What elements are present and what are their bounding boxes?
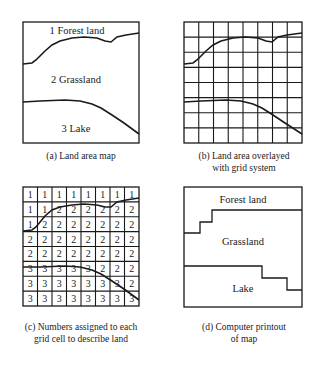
grid-cell-value: 3 <box>71 278 76 289</box>
grid-cell-value: 2 <box>57 219 62 230</box>
grid-cell-value: 2 <box>115 219 120 230</box>
panel-c-numbered-grid: 1111111111222222122222222222222222222222… <box>23 187 139 306</box>
grid-cell-value: 2 <box>115 248 120 259</box>
grid-cell-value: 1 <box>100 189 105 200</box>
forest-grass-boundary <box>23 33 139 64</box>
grid-cell-value: 2 <box>129 234 134 245</box>
caption-d-line2: of map <box>160 333 318 345</box>
grid-cell-value: 1 <box>71 189 76 200</box>
grid-cell-value: 3 <box>42 263 47 274</box>
grid-cell-value: 2 <box>115 263 120 274</box>
land-grid-diagram: 1 Forest land 2 Grassland 3 Lake 1111111… <box>0 0 318 366</box>
grid-cell-value: 2 <box>86 219 91 230</box>
grid-cell-value: 2 <box>86 248 91 259</box>
grid-cell-value: 1 <box>28 189 33 200</box>
grid-cell-value: 1 <box>57 189 62 200</box>
grid-cell-value: 2 <box>129 263 134 274</box>
grid-cell-value: 3 <box>42 293 47 304</box>
caption-a: (a) Land area map <box>0 150 162 162</box>
caption-d: (d) Computer printout of map <box>160 321 318 345</box>
grid-cell-value: 3 <box>57 263 62 274</box>
grid-cell-value: 2 <box>57 234 62 245</box>
panel-d-computer-printout: Forest land Grassland Lake <box>184 187 302 307</box>
forest-label: 1 Forest land <box>50 25 106 36</box>
grid-cell-value: 2 <box>71 234 76 245</box>
grassland-label: Grassland <box>222 236 265 247</box>
grid-cell-value: 2 <box>42 248 47 259</box>
lake-label: Lake <box>233 283 254 294</box>
grid-cell-value: 1 <box>42 204 47 215</box>
grid-cell-value: 1 <box>115 189 120 200</box>
grid-cell-value: 2 <box>129 204 134 215</box>
grid-cell-value: 2 <box>28 248 33 259</box>
grid-cell-value: 3 <box>42 278 47 289</box>
grid-cell-value: 2 <box>129 278 134 289</box>
grid-cell-value: 2 <box>100 263 105 274</box>
grid-cell-value: 3 <box>100 278 105 289</box>
grid-cell-value: 3 <box>28 263 33 274</box>
grid-cell-value: 2 <box>42 219 47 230</box>
grid-cell-value: 3 <box>100 293 105 304</box>
grid-cell-value: 3 <box>28 293 33 304</box>
forest-label: Forest land <box>220 194 268 205</box>
grid-cell-value: 2 <box>86 204 91 215</box>
grid-cell-value: 1 <box>28 204 33 215</box>
grid-cell-value: 3 <box>115 293 120 304</box>
grid-cell-value: 3 <box>86 278 91 289</box>
grid-cell-value: 3 <box>71 293 76 304</box>
grid-cell-value: 1 <box>86 189 91 200</box>
grid-cell-value: 1 <box>28 219 33 230</box>
grid-cell-value: 1 <box>42 189 47 200</box>
forest-grass-step-boundary <box>184 210 302 233</box>
grid-cell-value: 3 <box>28 278 33 289</box>
grid-cell-value: 2 <box>71 248 76 259</box>
grid-cell-value: 2 <box>100 248 105 259</box>
grid-cell-value: 2 <box>100 219 105 230</box>
grid-cell-value: 2 <box>57 248 62 259</box>
caption-b: (b) Land area overlayed with grid system <box>160 150 318 174</box>
caption-c-line2: grid cell to describe land <box>0 333 162 345</box>
panel-a-land-area-map: 1 Forest land 2 Grassland 3 Lake <box>23 22 139 143</box>
grid-cell-value: 3 <box>57 278 62 289</box>
panel-b-grid-overlay <box>184 22 302 143</box>
grid-cell-value: 2 <box>115 234 120 245</box>
grid-cell-value: 2 <box>71 219 76 230</box>
grid-cell-value: 3 <box>57 293 62 304</box>
caption-d-line1: (d) Computer printout <box>160 321 318 333</box>
grid-cell-value: 2 <box>86 234 91 245</box>
grid-cell-value: 2 <box>129 219 134 230</box>
caption-c: (c) Numbers assigned to each grid cell t… <box>0 321 162 345</box>
grid-cell-value: 2 <box>42 234 47 245</box>
grid-cell-value: 2 <box>57 204 62 215</box>
grid-cell-value: 3 <box>86 293 91 304</box>
caption-c-line1: (c) Numbers assigned to each <box>0 321 162 333</box>
caption-b-line2: with grid system <box>160 162 318 174</box>
grid-cell-value: 3 <box>71 263 76 274</box>
grid-cell-value: 2 <box>28 234 33 245</box>
caption-b-line1: (b) Land area overlayed <box>160 150 318 162</box>
lake-label: 3 Lake <box>62 123 91 134</box>
grid-cell-value: 2 <box>100 234 105 245</box>
grid-cell-value: 2 <box>129 248 134 259</box>
grid-cell-value: 2 <box>115 204 120 215</box>
grassland-label: 2 Grassland <box>51 74 102 85</box>
